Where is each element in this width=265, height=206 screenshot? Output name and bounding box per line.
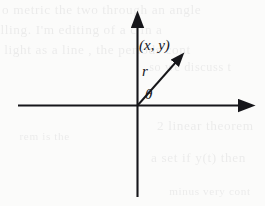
figure-canvas: o metric the two through an angle lling.…	[0, 0, 265, 206]
angle-theta-label: θ	[145, 87, 152, 102]
coordinate-diagram: (x, y) r θ	[0, 0, 265, 206]
axes-and-ray-svg	[0, 0, 265, 206]
point-coordinates-label: (x, y)	[139, 38, 170, 53]
radius-label: r	[142, 64, 148, 79]
